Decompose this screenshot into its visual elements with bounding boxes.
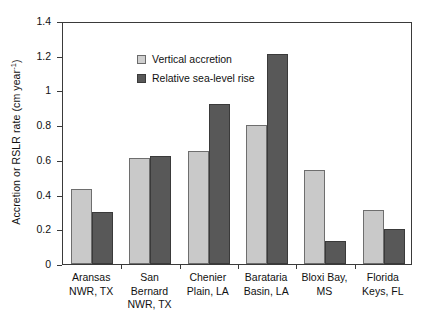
y-axis-tick-label: 0.2 — [36, 223, 51, 235]
bar-vertical-accretion — [129, 158, 150, 264]
plot-area: Vertical accretion Relative sea-level ri… — [62, 22, 412, 265]
x-axis-separator-tick — [121, 264, 122, 269]
bar-vertical-accretion — [71, 189, 92, 264]
bar-relative-sea-level-rise — [209, 104, 230, 264]
y-axis-tick-mark — [57, 265, 62, 266]
y-axis-tick-label: 0 — [45, 258, 51, 270]
bar-group — [180, 21, 238, 264]
y-axis-tick-label: 1 — [45, 84, 51, 96]
x-axis-category-label: AransasNWR, TX — [62, 271, 120, 298]
x-axis-separator-tick — [296, 264, 297, 269]
plot-inner: Vertical accretion Relative sea-level ri… — [63, 23, 411, 264]
bar-group — [63, 21, 121, 264]
bar-group — [355, 21, 413, 264]
category-label-line-1: Chenier — [189, 271, 226, 283]
bar-vertical-accretion — [246, 125, 267, 264]
bar-vertical-accretion — [188, 151, 209, 264]
bar-relative-sea-level-rise — [267, 54, 288, 264]
x-axis-separator-tick — [180, 264, 181, 269]
x-axis-category-label: San BernardNWR, TX — [120, 271, 178, 312]
bar-vertical-accretion — [304, 170, 325, 264]
y-axis-title: Accretion or RSLR rate (cm year-1) — [10, 22, 22, 262]
y-axis-tick-label: 1.4 — [36, 15, 51, 27]
category-label-line-2: Basin, LA — [237, 285, 295, 299]
bar-group — [121, 21, 179, 264]
x-axis-category-label: BaratariaBasin, LA — [237, 271, 295, 298]
category-label-line-2: NWR, TX — [120, 298, 178, 312]
x-axis-category-label: FloridaKeys, FL — [354, 271, 412, 298]
y-axis-title-text: Accretion or RSLR rate (cm year — [10, 70, 22, 225]
category-label-line-1: Florida — [367, 271, 399, 283]
x-axis-separator-tick — [238, 264, 239, 269]
x-axis-category-label: Bloxi Bay,MS — [295, 271, 353, 298]
bar-group — [296, 21, 354, 264]
category-label-line-1: Aransas — [72, 271, 111, 283]
category-label-line-2: NWR, TX — [62, 285, 120, 299]
bar-relative-sea-level-rise — [92, 212, 113, 264]
x-axis-category-label: ChenierPlain, LA — [179, 271, 237, 298]
category-label-line-2: Keys, FL — [354, 285, 412, 299]
bar-relative-sea-level-rise — [325, 241, 346, 264]
bar-group — [238, 21, 296, 264]
category-label-line-1: Bloxi Bay, — [302, 271, 348, 283]
bar-relative-sea-level-rise — [384, 229, 405, 264]
y-axis-title-superscript: -1 — [9, 63, 18, 70]
category-label-line-2: Plain, LA — [179, 285, 237, 299]
y-axis-title-tail: ) — [10, 59, 22, 63]
bar-vertical-accretion — [363, 210, 384, 264]
category-label-line-1: Barataria — [245, 271, 288, 283]
category-label-line-2: MS — [295, 285, 353, 299]
category-label-line-1: San Bernard — [131, 271, 168, 297]
y-axis-tick-label: 0.4 — [36, 189, 51, 201]
x-axis-separator-tick — [355, 264, 356, 269]
y-axis-tick-label: 0.8 — [36, 119, 51, 131]
y-axis-tick-label: 0.6 — [36, 154, 51, 166]
y-axis-tick-label: 1.2 — [36, 50, 51, 62]
bar-relative-sea-level-rise — [150, 156, 171, 264]
bar-chart-figure: Accretion or RSLR rate (cm year-1) 00.20… — [0, 0, 428, 314]
